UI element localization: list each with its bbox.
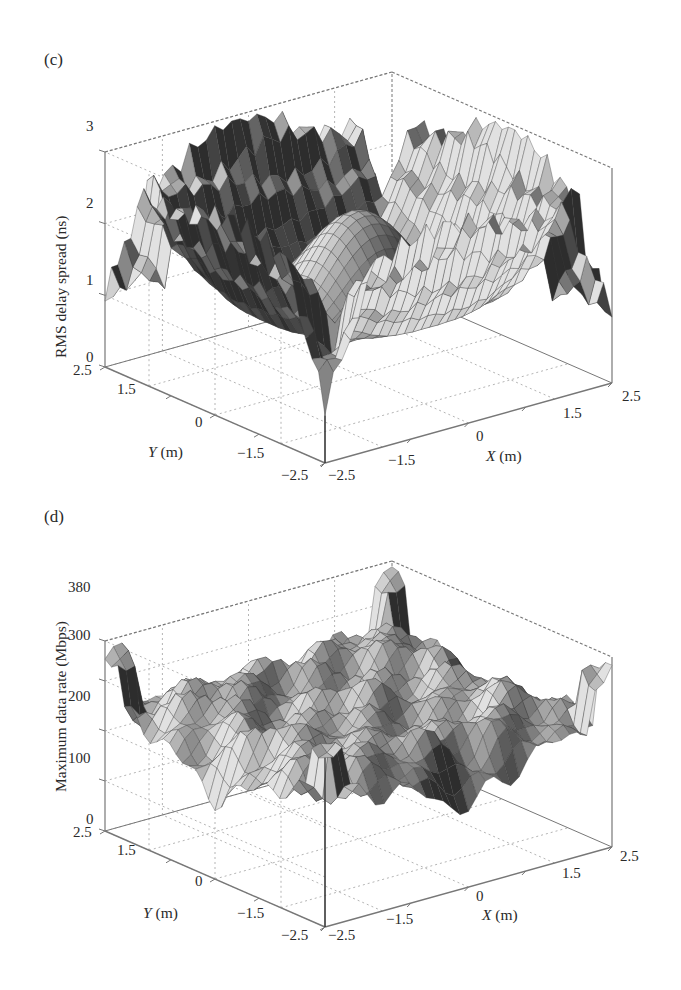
z-axis-label: RMS delay spread (ns) [52, 216, 70, 359]
x-tick: 0 [476, 428, 484, 445]
surface-plot-d [0, 495, 681, 990]
x-axis-label: X (m) [482, 906, 518, 924]
y-tick: 0 [195, 414, 203, 431]
x-tick: 1.5 [562, 865, 581, 882]
chart-panel-d: (d) Maximum data rate (Mbps) 380 300 200… [0, 495, 681, 990]
x-tick: 2.5 [620, 848, 639, 865]
y-tick: 1.5 [117, 842, 136, 859]
panel-label: (c) [44, 50, 63, 70]
z-tick: 200 [68, 688, 91, 705]
x-tick: 2.5 [622, 388, 641, 405]
y-axis-label: Y (m) [143, 904, 178, 922]
y-tick: −2.5 [281, 467, 308, 484]
z-tick: 380 [68, 579, 91, 596]
z-tick: 2 [86, 195, 94, 212]
z-tick: 300 [68, 627, 91, 644]
z-tick: 3 [86, 118, 94, 135]
y-tick: −1.5 [237, 905, 264, 922]
z-tick: 1 [86, 272, 94, 289]
x-tick: −2.5 [328, 467, 355, 484]
x-tick: 1.5 [563, 405, 582, 422]
y-tick: 2.5 [73, 362, 92, 379]
y-axis-label: Y (m) [148, 443, 183, 461]
x-tick: −2.5 [328, 927, 355, 944]
z-tick: 100 [68, 750, 91, 767]
chart-panel-c: (c) RMS delay spread (ns) 3 2 1 0 2.5 1.… [0, 0, 681, 495]
y-tick: 2.5 [73, 824, 92, 841]
y-tick: 0 [195, 873, 203, 890]
x-axis-label: X (m) [486, 447, 522, 465]
y-tick: −1.5 [237, 445, 264, 462]
panel-label: (d) [44, 507, 64, 527]
x-tick: −1.5 [386, 911, 413, 928]
y-tick: −2.5 [281, 927, 308, 944]
x-tick: 0 [476, 888, 484, 905]
x-tick: −1.5 [388, 452, 415, 469]
y-tick: 1.5 [117, 381, 136, 398]
